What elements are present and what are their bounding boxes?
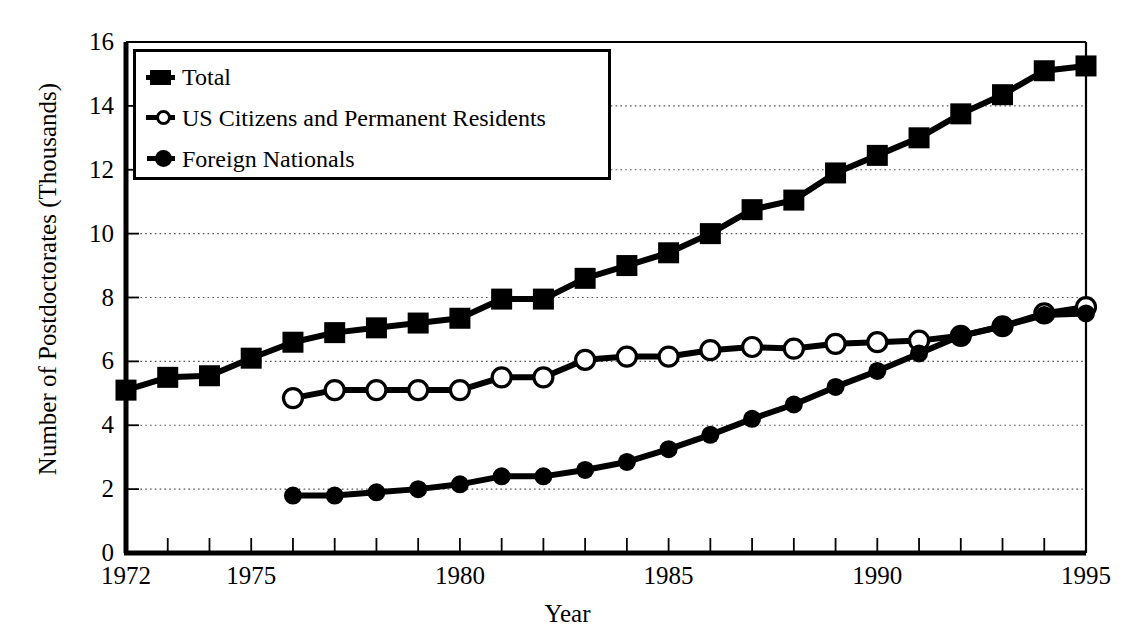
data-point <box>326 487 344 505</box>
y-tick-label: 12 <box>58 157 114 182</box>
data-point <box>576 461 594 479</box>
y-tick-label: 10 <box>58 221 114 246</box>
data-point <box>450 381 469 400</box>
data-point <box>909 127 930 148</box>
series-foreign-nationals <box>284 304 1095 504</box>
y-tick-label: 4 <box>58 412 114 437</box>
y-tick-label: 14 <box>58 93 114 118</box>
data-point <box>910 344 928 362</box>
data-point <box>409 480 427 498</box>
y-tick-label: 2 <box>58 476 114 501</box>
data-point <box>701 341 720 360</box>
data-point <box>451 475 469 493</box>
data-point <box>784 339 803 358</box>
data-point <box>367 483 385 501</box>
data-point <box>409 381 428 400</box>
series-us-citizens-and-permanent-residents <box>283 298 1095 408</box>
data-point <box>618 453 636 471</box>
data-point <box>994 317 1012 335</box>
filled-square-icon <box>146 65 180 89</box>
chart-figure: Number of Postdoctorates (Thousands) Yea… <box>0 0 1135 644</box>
y-tick-label: 8 <box>58 285 114 310</box>
data-point <box>743 338 762 357</box>
x-tick-label: 1975 <box>196 563 306 588</box>
x-axis-ticks <box>126 538 1086 551</box>
data-point <box>992 84 1013 105</box>
legend-item-foreign-nationals[interactable]: Foreign Nationals <box>136 138 608 179</box>
data-point <box>867 145 888 166</box>
data-point <box>1034 60 1055 81</box>
data-point <box>199 365 220 386</box>
x-tick-label: 1995 <box>1031 563 1135 588</box>
data-point <box>660 440 678 458</box>
data-point <box>284 487 302 505</box>
data-point <box>785 395 803 413</box>
data-point <box>783 190 804 211</box>
data-point <box>533 289 554 310</box>
y-tick-label: 6 <box>58 348 114 373</box>
data-point <box>1035 306 1053 324</box>
filled-circle-icon <box>146 147 180 171</box>
legend-label-total: Total <box>182 65 231 89</box>
open-circle-icon <box>146 106 180 130</box>
legend-label-foreign-nationals: Foreign Nationals <box>182 147 355 171</box>
data-point <box>1077 304 1095 322</box>
data-point <box>534 368 553 387</box>
data-point <box>825 162 846 183</box>
data-point <box>367 381 386 400</box>
data-point <box>950 103 971 124</box>
data-point <box>366 317 387 338</box>
data-point <box>576 350 595 369</box>
y-tick-label: 16 <box>58 29 114 54</box>
data-point <box>241 348 262 369</box>
data-point <box>575 268 596 289</box>
legend-label-us-citizens: US Citizens and Permanent Residents <box>182 106 546 130</box>
x-tick-label: 1990 <box>822 563 932 588</box>
data-point <box>324 322 345 343</box>
data-point <box>283 389 302 408</box>
data-point <box>868 333 887 352</box>
data-point <box>868 362 886 380</box>
data-point <box>492 368 511 387</box>
data-point <box>700 223 721 244</box>
x-tick-label: 1972 <box>71 563 181 588</box>
chart-legend: Total US Citizens and Permanent Resident… <box>133 49 611 180</box>
data-point <box>534 467 552 485</box>
x-tick-label: 1980 <box>405 563 515 588</box>
data-point <box>658 242 679 263</box>
data-point <box>325 381 344 400</box>
data-point <box>408 313 429 334</box>
legend-item-us-citizens[interactable]: US Citizens and Permanent Residents <box>136 97 608 138</box>
data-point <box>157 367 178 388</box>
data-point <box>826 334 845 353</box>
data-point <box>659 347 678 366</box>
data-point <box>449 308 470 329</box>
data-point <box>701 426 719 444</box>
data-point <box>282 332 303 353</box>
data-point <box>617 347 636 366</box>
data-point <box>493 467 511 485</box>
data-point <box>743 410 761 428</box>
data-point <box>952 327 970 345</box>
data-point <box>1076 55 1097 76</box>
data-point <box>116 380 137 401</box>
data-point <box>742 199 763 220</box>
legend-item-total[interactable]: Total <box>136 56 608 97</box>
data-point <box>827 378 845 396</box>
data-point <box>491 289 512 310</box>
data-point <box>616 255 637 276</box>
x-tick-label: 1985 <box>614 563 724 588</box>
